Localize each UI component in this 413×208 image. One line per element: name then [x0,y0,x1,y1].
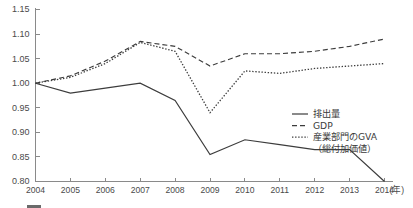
y-tick-label: 1.05 [12,54,30,64]
y-tick-label: 0.85 [12,152,30,162]
x-tick-label: 2012 [305,185,324,195]
x-tick-label: 2004 [26,185,45,195]
series-line-2 [36,39,385,83]
x-tick-label: 2006 [96,185,115,195]
chart-legend: 排出量GDP産業部門のGVA（総付加価値） [292,108,378,154]
x-tick-label: 2009 [200,185,219,195]
y-tick-label: 1.15 [12,4,30,14]
chart-container: 0.800.850.900.951.001.051.101.15 2004200… [0,0,413,208]
x-tick-label: 2007 [131,185,150,195]
series-line-3 [36,42,385,112]
x-tick-label: 2013 [340,185,359,195]
line-chart: 0.800.850.900.951.001.051.101.15 2004200… [0,0,413,208]
y-tick-label: 1.00 [12,78,30,88]
legend-label-2: GDP [313,120,333,131]
legend-label-1: 排出量 [313,108,340,119]
y-tick-label: 0.95 [12,103,30,113]
y-tick-label: 0.90 [12,127,30,137]
x-tick-label: 2008 [166,185,185,195]
y-tick-label: 1.10 [12,29,30,39]
x-tick-label: 2011 [271,185,290,195]
x-tick-label: 2010 [235,185,254,195]
legend-label-3: 産業部門のGVA [313,131,378,142]
bottom-cropped-strip [0,203,413,208]
x-axis-tick-group: 2004200520062007200820092010201120122013… [26,178,394,195]
bottom-swatch-icon [27,205,41,208]
x-axis-unit-label: (年) [390,184,405,195]
x-tick-label: 2005 [61,185,80,195]
legend-label-4: （総付加価値） [313,143,376,154]
